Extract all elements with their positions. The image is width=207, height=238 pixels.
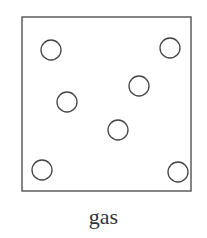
particle-circle (160, 38, 180, 58)
particle-circle (32, 160, 52, 180)
gas-diagram (0, 0, 207, 238)
particles (32, 38, 188, 182)
particle-circle (168, 162, 188, 182)
container-box (22, 17, 191, 191)
particle-circle (129, 76, 149, 96)
particle-circle (41, 40, 61, 60)
particle-circle (108, 120, 128, 140)
particle-circle (57, 92, 77, 112)
state-label: gas (0, 204, 207, 230)
